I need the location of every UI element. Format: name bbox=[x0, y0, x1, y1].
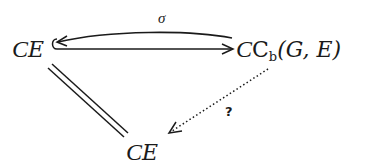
sigma-arrow bbox=[57, 32, 232, 46]
node-symbol: E bbox=[142, 140, 158, 165]
roman-c: C bbox=[252, 37, 269, 62]
script-c: C bbox=[236, 36, 252, 62]
commutative-diagram: CE CCb(G, E) CE σ ? bbox=[0, 0, 374, 167]
node-top-left: CE bbox=[12, 37, 44, 61]
node-symbol: E bbox=[28, 37, 44, 62]
subscript: b bbox=[269, 49, 277, 64]
unknown-dotted-arrow bbox=[169, 69, 268, 133]
script-c: C bbox=[12, 36, 28, 62]
question-label: ? bbox=[225, 105, 233, 118]
diagram-arrows bbox=[0, 0, 374, 167]
script-c: C bbox=[126, 139, 142, 165]
inclusion-arrow bbox=[53, 39, 234, 54]
node-args: (G, E) bbox=[277, 37, 341, 62]
identity-double-line bbox=[48, 64, 128, 137]
node-bottom: CE bbox=[126, 140, 158, 164]
node-top-right: CCb(G, E) bbox=[236, 37, 341, 63]
sigma-label: σ bbox=[158, 11, 165, 26]
